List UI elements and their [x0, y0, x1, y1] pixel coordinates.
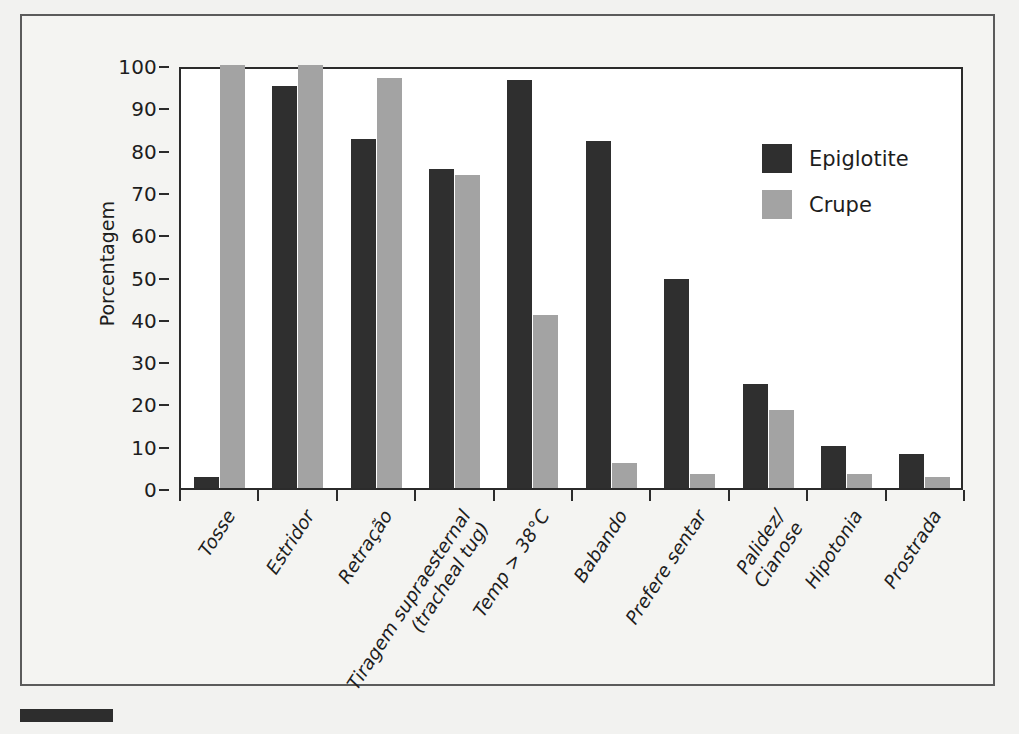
y-tick-label: 20 [131, 393, 157, 417]
x-tick-label: Prefere sentar [621, 506, 711, 628]
x-tick-label-line: Estridor [261, 506, 318, 578]
caption-rule [20, 709, 113, 722]
x-tick-label: Palidez/Cianose [731, 506, 808, 591]
y-tick-label: 0 [144, 478, 157, 502]
x-tick-label: Babando [570, 506, 633, 587]
legend-swatch-crupe [762, 190, 792, 219]
x-tick-label-line: Retração [334, 506, 397, 587]
x-tick-label: Retração [334, 506, 398, 588]
bar-crupe-8 [847, 474, 872, 488]
bar-epiglotite-1 [272, 86, 297, 488]
x-tick-mark [885, 490, 887, 501]
bar-epiglotite-0 [194, 477, 219, 488]
x-tick-mark [179, 490, 181, 501]
bar-epiglotite-8 [821, 446, 846, 488]
x-tick-mark [728, 490, 730, 501]
y-tick-label: 80 [131, 140, 157, 164]
y-tick-mark [159, 404, 169, 406]
y-tick-label: 60 [131, 224, 157, 248]
y-tick-label: 10 [131, 436, 157, 460]
y-tick-mark [159, 447, 169, 449]
bar-crupe-7 [769, 410, 794, 488]
x-tick-mark [963, 490, 965, 501]
y-tick-mark [159, 151, 169, 153]
x-tick-label-line: Hipotonia [801, 506, 867, 592]
bar-crupe-4 [533, 315, 558, 488]
legend-label-epiglotite: Epiglotite [809, 147, 909, 171]
x-tick-mark [414, 490, 416, 501]
y-tick-mark [159, 320, 169, 322]
bar-crupe-2 [377, 78, 402, 488]
y-tick-label: 50 [131, 267, 157, 291]
x-tick-label-line: Prostrada [879, 506, 945, 592]
x-tick-label-line: Babando [570, 506, 632, 586]
y-tick-mark [159, 278, 169, 280]
x-tick-label: Hipotonia [801, 506, 868, 592]
y-tick-mark [159, 362, 169, 364]
bar-crupe-9 [925, 477, 950, 488]
bar-epiglotite-4 [507, 80, 532, 488]
bar-epiglotite-5 [586, 141, 611, 488]
figure-canvas: 0102030405060708090100 Porcentagem Tosse… [0, 0, 1019, 734]
bar-crupe-5 [612, 463, 637, 488]
x-axis: TosseEstridorRetraçãoTiragem supraestern… [179, 490, 965, 720]
x-tick-label: Estridor [261, 506, 319, 578]
x-tick-label-line: Tosse [194, 506, 239, 560]
x-tick-mark [336, 490, 338, 501]
plot-area [179, 67, 963, 490]
y-tick-label: 100 [118, 55, 157, 79]
y-tick-mark [159, 193, 169, 195]
y-tick-label: 90 [131, 97, 157, 121]
bar-epiglotite-9 [899, 454, 924, 488]
y-tick-mark [159, 235, 169, 237]
x-tick-mark [571, 490, 573, 501]
y-tick-mark [159, 108, 169, 110]
legend-label-crupe: Crupe [809, 193, 872, 217]
legend-item-crupe: Crupe [762, 190, 952, 219]
bar-epiglotite-3 [429, 169, 454, 488]
bar-crupe-3 [455, 175, 480, 488]
x-tick-mark [806, 490, 808, 501]
bar-epiglotite-2 [351, 139, 376, 488]
legend-item-epiglotite: Epiglotite [762, 144, 952, 173]
x-tick-mark [649, 490, 651, 501]
y-tick-label: 40 [131, 309, 157, 333]
y-tick-mark [159, 66, 169, 68]
x-tick-label-line: Prefere sentar [621, 506, 710, 628]
bar-crupe-6 [690, 474, 715, 488]
bars-layer [181, 69, 961, 488]
chart-legend: Epiglotite Crupe [762, 144, 952, 236]
x-tick-mark [493, 490, 495, 501]
y-tick-label: 70 [131, 182, 157, 206]
legend-swatch-epiglotite [762, 144, 792, 173]
y-axis-title: Porcentagem [96, 201, 118, 326]
x-tick-label: Tosse [194, 506, 240, 561]
bar-crupe-1 [298, 65, 323, 488]
bar-epiglotite-7 [743, 384, 768, 488]
x-tick-label: Prostrada [879, 506, 946, 593]
x-tick-mark [257, 490, 259, 501]
y-tick-mark [159, 489, 169, 491]
bar-crupe-0 [220, 65, 245, 488]
y-tick-label: 30 [131, 351, 157, 375]
figure-frame: 0102030405060708090100 Porcentagem Tosse… [20, 14, 995, 686]
bar-epiglotite-6 [664, 279, 689, 488]
